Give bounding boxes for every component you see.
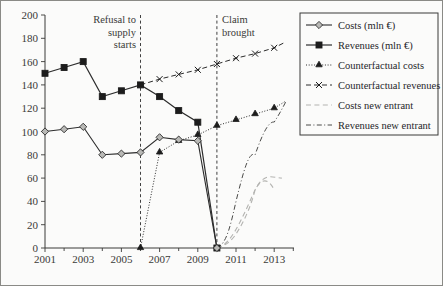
chart-page: 200 180 160 140 120 100 80 60 40 20 0 xyxy=(0,0,443,286)
annotation-refusal-to-supply: Refusal to supply starts xyxy=(93,14,137,50)
y-tick-label: 120 xyxy=(22,102,39,114)
triangle-marker-icon xyxy=(316,61,322,67)
legend-item-revenues-new-entrant[interactable]: Revenues new entrant xyxy=(306,120,431,131)
y-tick-label: 200 xyxy=(22,9,39,21)
x-axis-labels: 2001 2003 2005 2007 2009 2011 2013 xyxy=(34,253,286,265)
y-tick-label: 80 xyxy=(27,149,39,161)
x-tick-label: 2013 xyxy=(263,253,286,265)
y-tick-label: 180 xyxy=(22,32,39,44)
y-axis-labels: 200 180 160 140 120 100 80 60 40 20 0 xyxy=(22,9,39,254)
legend-item-counterfactual-costs[interactable]: Counterfactual costs xyxy=(306,60,424,71)
series-revenues xyxy=(42,59,220,251)
series-counterfactual-revenues xyxy=(141,42,286,85)
legend-item-revenues[interactable]: Revenues (mln €) xyxy=(306,40,413,52)
chart-legend: Costs (mln €) Revenues (mln €) Counterfa… xyxy=(300,13,440,135)
legend-border xyxy=(300,13,438,135)
legend-item-counterfactual-revenues[interactable]: Counterfactual revenues xyxy=(306,80,440,91)
legend-label: Counterfactual revenues xyxy=(338,80,440,91)
legend-label: Revenues (mln €) xyxy=(338,40,413,52)
annotation-line: Claim xyxy=(222,14,248,25)
legend-item-costs-new-entrant[interactable]: Costs new entrant xyxy=(306,100,413,111)
costs-line xyxy=(45,127,217,248)
legend-label: Costs (mln €) xyxy=(338,20,396,32)
legend-label: Costs new entrant xyxy=(338,100,413,111)
y-tick-label: 40 xyxy=(27,195,39,207)
square-marker-icon xyxy=(316,42,322,48)
event-markers xyxy=(141,15,217,248)
x-tick-label: 2005 xyxy=(110,253,133,265)
y-tick-label: 100 xyxy=(22,126,39,138)
series-costs xyxy=(41,123,220,251)
annotation-line: starts xyxy=(114,39,136,50)
counterfactual-revenues-line xyxy=(141,42,286,85)
diamond-marker-icon xyxy=(315,21,322,28)
x-tick-label: 2001 xyxy=(34,253,56,265)
legend-label: Counterfactual costs xyxy=(338,60,424,71)
y-tick-label: 20 xyxy=(27,219,39,231)
counterfactual-costs-markers xyxy=(137,104,277,249)
legend-item-costs[interactable]: Costs (mln €) xyxy=(306,20,396,32)
annotation-line: Refusal to xyxy=(93,14,136,25)
x-tick-label: 2003 xyxy=(72,253,95,265)
annotation-line: brought xyxy=(222,27,255,38)
legend-label: Revenues new entrant xyxy=(338,120,431,131)
annotation-claim-brought: Claim brought xyxy=(222,14,255,38)
y-tick-label: 140 xyxy=(22,79,39,91)
x-tick-label: 2009 xyxy=(187,253,210,265)
x-tick-label: 2011 xyxy=(225,253,247,265)
annotation-line: supply xyxy=(108,27,137,38)
revenues-new-entrant-curve xyxy=(217,102,286,248)
series-revenues-new-entrant xyxy=(217,102,286,248)
y-tick-label: 160 xyxy=(22,56,39,68)
costs-markers xyxy=(41,123,220,251)
axis-group xyxy=(45,15,294,248)
economics-line-chart: 200 180 160 140 120 100 80 60 40 20 0 xyxy=(1,1,443,286)
x-axis-ticks xyxy=(45,248,293,252)
revenues-line xyxy=(45,62,217,248)
costs-new-entrant-curve xyxy=(217,177,282,248)
y-tick-label: 60 xyxy=(27,172,39,184)
x-tick-label: 2007 xyxy=(149,253,172,265)
series-counterfactual-costs xyxy=(137,101,285,249)
series-costs-new-entrant xyxy=(217,177,282,248)
